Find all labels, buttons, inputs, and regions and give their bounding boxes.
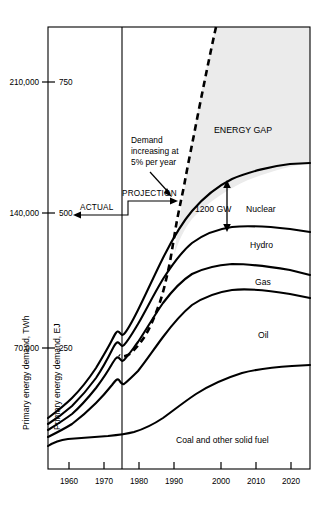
- series-label-hydro: Hydro: [250, 240, 273, 250]
- annotation-demand-growth: Demand increasing at 5% per year: [131, 135, 179, 197]
- annotation-capacity-label: 1200 GW: [195, 204, 232, 214]
- annotation-actual: ACTUAL: [73, 203, 122, 219]
- y-tick-label-twh-140000: 140,000: [9, 209, 39, 218]
- x-tick-label-1980: 1980: [130, 477, 149, 486]
- chart-svg: 750 500 250 210,000 140,000 70,000 Prima…: [0, 0, 329, 518]
- annotation-projection-leader: [122, 201, 172, 215]
- y-tick-label-ej-750: 750: [59, 78, 73, 87]
- series-line-oil: [48, 289, 310, 437]
- energy-demand-chart: 750 500 250 210,000 140,000 70,000 Prima…: [0, 0, 329, 518]
- series-label-gas: Gas: [255, 277, 271, 287]
- annotation-demand-growth-line1: Demand: [131, 135, 163, 145]
- x-tick-label-1990: 1990: [165, 477, 184, 486]
- x-tick-label-2000: 2000: [212, 477, 231, 486]
- y-axis-title-ej: Primary energy demand, EJ: [52, 323, 62, 430]
- annotation-energy-gap: ENERGY GAP: [214, 125, 272, 135]
- x-axis: 1960 1970 1980 1990 2000 2010 2020: [60, 462, 301, 486]
- annotation-demand-growth-line2: increasing at: [131, 146, 179, 156]
- x-tick-label-2010: 2010: [247, 477, 266, 486]
- y-tick-label-ej-500: 500: [59, 209, 73, 218]
- series-label-oil: Oil: [258, 330, 269, 340]
- y-tick-label-twh-210000: 210,000: [9, 78, 39, 87]
- y-axis-title-twh: Primary energy demand, TWh: [21, 315, 31, 430]
- annotation-projection: PROJECTION: [122, 189, 178, 215]
- energy-gap-region: [174, 27, 310, 256]
- annotation-projection-arrowhead: [170, 198, 178, 205]
- y-axis-twh: 210,000 140,000 70,000: [9, 78, 39, 353]
- series-line-hydro: [48, 226, 310, 424]
- annotation-projection-label: PROJECTION: [122, 189, 177, 198]
- x-tick-label-2020: 2020: [282, 477, 301, 486]
- series-line-coal: [48, 365, 310, 446]
- series-label-nuclear: Nuclear: [246, 204, 276, 214]
- y-axis-ej: 750 500 250: [42, 78, 73, 353]
- annotation-actual-arrowhead: [73, 212, 81, 219]
- x-tick-label-1970: 1970: [95, 477, 114, 486]
- annotation-demand-growth-line3: 5% per year: [131, 157, 176, 167]
- series-label-coal: Coal and other solid fuel: [176, 435, 269, 445]
- annotation-actual-label: ACTUAL: [80, 203, 114, 212]
- x-tick-label-1960: 1960: [60, 477, 79, 486]
